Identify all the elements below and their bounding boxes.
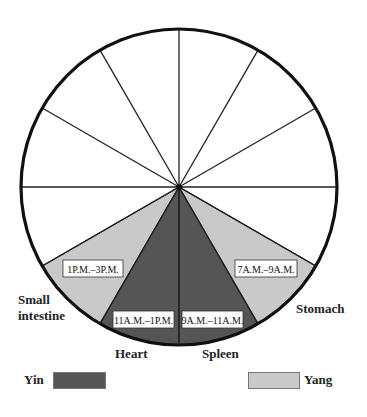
organ-clock-wheel: 1P.M.–3P.M. 7A.M.–9A.M. 11A.M.–1P.M. 9A.…: [0, 0, 367, 417]
legend-yang-label: Yang: [304, 372, 332, 388]
svg-text:7A.M.–9A.M.: 7A.M.–9A.M.: [237, 264, 294, 275]
time-box-spleen: 9A.M.–11A.M.: [182, 311, 244, 328]
legend-yin-label: Yin: [24, 372, 44, 388]
label-heart: Heart: [115, 346, 147, 362]
label-small-intestine-line1: Small: [18, 292, 65, 308]
legend-yang-swatch: [248, 372, 300, 389]
label-small-intestine-line2: intestine: [18, 308, 65, 324]
label-small-intestine: Small intestine: [18, 292, 65, 324]
label-spleen: Spleen: [202, 346, 239, 362]
label-stomach: Stomach: [296, 301, 344, 317]
time-box-small-intestine: 1P.M.–3P.M.: [63, 260, 123, 277]
time-box-heart: 11A.M.–1P.M.: [113, 311, 174, 328]
wheel-hub: [176, 184, 182, 190]
time-box-stomach: 7A.M.–9A.M.: [235, 260, 297, 277]
svg-text:9A.M.–11A.M.: 9A.M.–11A.M.: [182, 315, 244, 326]
legend-yin-swatch: [53, 372, 106, 389]
svg-text:11A.M.–1P.M.: 11A.M.–1P.M.: [114, 315, 173, 326]
svg-text:1P.M.–3P.M.: 1P.M.–3P.M.: [67, 264, 119, 275]
